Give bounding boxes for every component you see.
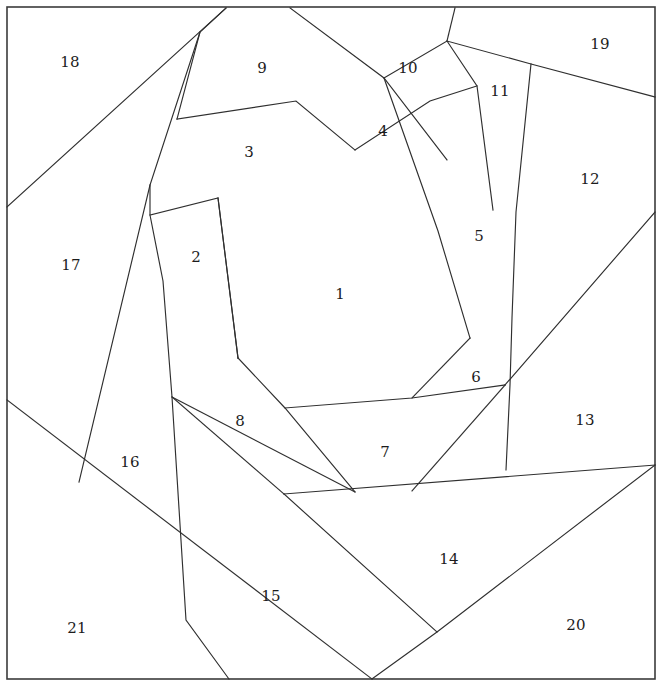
piece-label-14: 14	[439, 552, 459, 567]
piece-label-19: 19	[590, 37, 610, 52]
dissection-svg	[0, 0, 671, 687]
piece-label-20: 20	[566, 618, 586, 633]
piece-label-6: 6	[471, 370, 481, 385]
piece-label-4: 4	[378, 124, 388, 139]
piece-label-3: 3	[244, 145, 254, 160]
piece-label-18: 18	[60, 55, 80, 70]
piece-label-10: 10	[398, 61, 418, 76]
outer-frame	[7, 7, 655, 679]
piece-label-12: 12	[580, 172, 600, 187]
piece-label-7: 7	[380, 445, 390, 460]
piece-label-17: 17	[61, 258, 81, 273]
piece-label-16: 16	[120, 455, 140, 470]
piece-label-21: 21	[67, 621, 87, 636]
piece-label-8: 8	[235, 414, 245, 429]
piece-label-5: 5	[474, 229, 484, 244]
piece-label-2: 2	[191, 250, 201, 265]
piece-label-11: 11	[490, 84, 510, 99]
piece-label-13: 13	[575, 413, 595, 428]
piece-label-9: 9	[257, 61, 267, 76]
dissection-figure: 123456789101112131415161718192021	[0, 0, 671, 687]
piece-label-15: 15	[261, 589, 281, 604]
piece-label-1: 1	[335, 287, 345, 302]
